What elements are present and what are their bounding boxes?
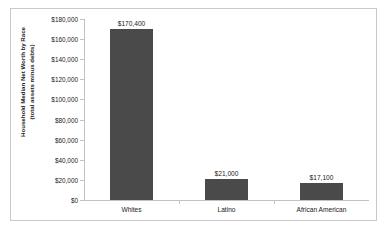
y-axis-tick xyxy=(80,120,84,121)
plot-area: $0$20,000$40,000$60,000$80,000$100,000$1… xyxy=(84,19,369,200)
y-axis-tick-label: $0 xyxy=(71,197,78,204)
y-axis-tick-label: $160,000 xyxy=(51,36,78,43)
y-axis-title: Household Median Net Worth by Race (tota… xyxy=(19,0,45,167)
y-axis-tick xyxy=(80,79,84,80)
x-axis-category-label: Whites xyxy=(121,206,141,213)
y-axis-tick xyxy=(80,160,84,161)
bar[interactable]: $21,000 xyxy=(205,179,248,200)
bar-value-label: $21,000 xyxy=(215,170,239,177)
bar[interactable]: $17,100 xyxy=(300,183,343,200)
x-axis-tick xyxy=(274,200,275,204)
x-axis-tick xyxy=(179,200,180,204)
y-axis-tick-label: $40,000 xyxy=(55,156,78,163)
y-axis-title-line1: Household Median Net Worth by Race xyxy=(19,27,26,137)
y-axis-tick-label: $100,000 xyxy=(51,96,78,103)
x-axis-line xyxy=(84,200,369,201)
y-axis-tick xyxy=(80,99,84,100)
y-axis-tick xyxy=(80,59,84,60)
bar-value-label: $170,400 xyxy=(118,20,146,27)
y-axis-tick xyxy=(80,140,84,141)
y-axis-tick-label: $140,000 xyxy=(51,56,78,63)
chart-frame: Household Median Net Worth by Race (tota… xyxy=(10,8,377,221)
y-axis-line xyxy=(84,19,85,200)
bar[interactable]: $170,400 xyxy=(110,29,153,200)
y-axis-tick xyxy=(80,200,84,201)
y-axis-tick-label: $60,000 xyxy=(55,136,78,143)
y-axis-tick-label: $180,000 xyxy=(51,16,78,23)
y-axis-title-line2: (total assets minus debts) xyxy=(28,0,37,167)
y-axis-tick-label: $20,000 xyxy=(55,176,78,183)
x-axis-category-label: Latino xyxy=(218,206,236,213)
y-axis-tick-label: $120,000 xyxy=(51,76,78,83)
y-axis-tick xyxy=(80,180,84,181)
y-axis-tick xyxy=(80,19,84,20)
x-axis-category-label: African American xyxy=(297,206,347,213)
y-axis-tick xyxy=(80,39,84,40)
bar-value-label: $17,100 xyxy=(310,174,334,181)
y-axis-tick-label: $80,000 xyxy=(55,116,78,123)
